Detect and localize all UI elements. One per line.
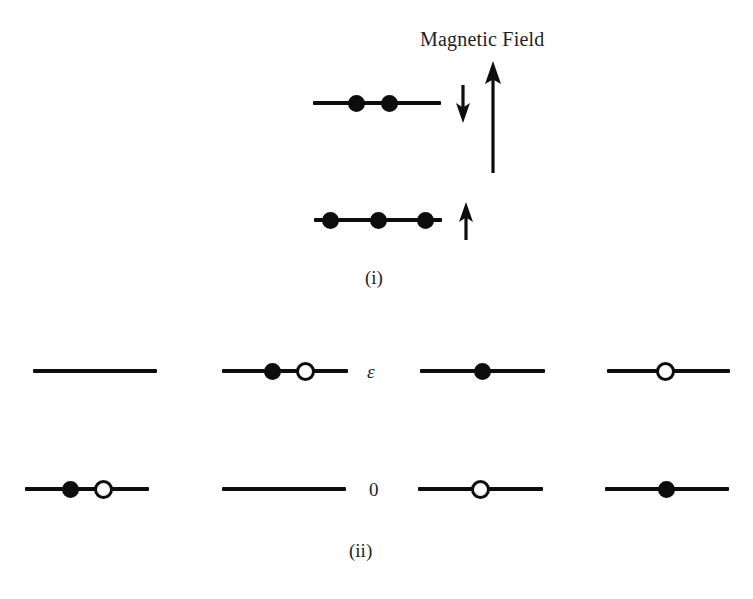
- panel-ii-col2-lower-line: [222, 487, 346, 491]
- energy-level-figure: Magnetic Field: [0, 0, 753, 599]
- panel-ii-col4-upper-marker-open: [656, 362, 675, 381]
- panel-i-lower-marker-2: [370, 212, 387, 229]
- panel-i-upper-spin-down-arrow-icon: [452, 84, 474, 124]
- magnetic-field-label: Magnetic Field: [420, 29, 544, 49]
- panel-i-lower-marker-3: [417, 212, 434, 229]
- panel-ii-col1-lower-marker-open: [94, 480, 113, 499]
- panel-ii-col4-lower-marker-filled: [658, 481, 675, 498]
- panel-ii-col2-upper-line: [222, 369, 348, 373]
- zero-level-label: 0: [369, 480, 379, 499]
- panel-i-lower-spin-up-arrow-icon: [455, 201, 477, 241]
- epsilon-level-label: ε: [367, 362, 375, 381]
- panel-ii-col2-upper-marker-open: [296, 362, 315, 381]
- panel-i-lower-marker-1: [322, 212, 339, 229]
- panel-ii-col1-lower-marker-filled: [62, 481, 79, 498]
- panel-ii-col1-lower-line: [25, 487, 149, 491]
- magnetic-field-arrow-up-icon: [478, 60, 508, 175]
- panel-i-caption: (i): [365, 268, 383, 287]
- panel-ii-caption: (ii): [349, 541, 372, 560]
- panel-ii-col1-upper-line: [33, 369, 157, 373]
- panel-i-upper-marker-1: [348, 95, 365, 112]
- panel-ii-col3-upper-marker-filled: [474, 363, 491, 380]
- panel-i-upper-marker-2: [381, 95, 398, 112]
- panel-ii-col2-upper-marker-filled: [264, 363, 281, 380]
- panel-i-upper-level-line: [313, 101, 441, 105]
- panel-ii-col3-lower-marker-open: [471, 480, 490, 499]
